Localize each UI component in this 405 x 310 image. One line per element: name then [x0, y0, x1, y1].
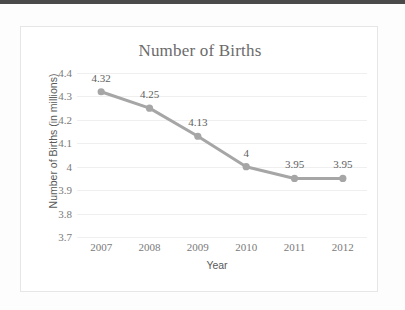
y-tick-label: 4.2: [58, 114, 72, 126]
data-point-marker: [339, 175, 346, 182]
y-tick-label: 3.9: [58, 184, 72, 196]
data-point-marker: [194, 133, 201, 140]
line-series: [77, 73, 367, 237]
x-tick-label: 2010: [235, 241, 257, 253]
y-tick-label: 4.3: [58, 90, 72, 102]
data-point-marker: [291, 175, 298, 182]
x-tick-label: 2009: [187, 241, 209, 253]
y-tick-label: 4.4: [58, 67, 72, 79]
data-point-label: 4.32: [92, 72, 111, 84]
chart-container: Number of Births Number of Births (in mi…: [20, 26, 378, 292]
x-tick-label: 2008: [139, 241, 161, 253]
chart-title: Number of Births: [21, 41, 379, 61]
x-axis-label: Year: [77, 259, 357, 271]
y-tick-label: 3.8: [58, 208, 72, 220]
x-tick-label: 2012: [332, 241, 354, 253]
data-point-marker: [243, 163, 250, 170]
plot-area: 4.44.34.24.143.93.83.7 20072008200920102…: [77, 73, 367, 237]
data-point-label: 4: [243, 147, 249, 159]
y-axis-label: Number of Births (in millions): [47, 51, 59, 231]
document-page: Number of Births Number of Births (in mi…: [0, 4, 405, 310]
data-point-marker: [146, 105, 153, 112]
y-tick-label: 4: [67, 161, 73, 173]
x-tick-label: 2007: [90, 241, 112, 253]
y-tick-label: 4.1: [58, 137, 72, 149]
data-point-label: 3.95: [333, 158, 352, 170]
data-point-marker: [98, 88, 105, 95]
data-point-label: 3.95: [285, 158, 304, 170]
gridline: [77, 237, 367, 238]
data-point-label: 4.13: [188, 116, 207, 128]
data-point-label: 4.25: [140, 88, 159, 100]
y-tick-label: 3.7: [58, 231, 72, 243]
x-tick-label: 2011: [284, 241, 306, 253]
series-line: [101, 92, 343, 179]
